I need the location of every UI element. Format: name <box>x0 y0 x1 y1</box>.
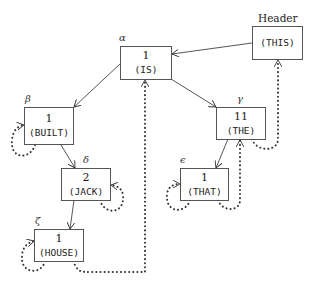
node-epsilon: 1 (THAT) <box>180 168 229 201</box>
node-count: 2 <box>83 171 90 185</box>
node-word: (HOUSE) <box>39 246 79 260</box>
header-node: (THIS) <box>252 26 303 60</box>
gamma-label: γ <box>237 93 243 104</box>
zeta-label: ζ <box>35 215 40 226</box>
node-word: (IS) <box>135 63 158 77</box>
node-count: 11 <box>234 110 248 124</box>
edge-header-alpha <box>172 43 252 54</box>
edge-alpha-gamma <box>171 79 216 107</box>
node-delta: 2 (JACK) <box>61 168 111 201</box>
node-word: (BUILT) <box>29 126 69 140</box>
node-count: 1 <box>46 112 53 126</box>
node-alpha: 1 (IS) <box>120 46 172 80</box>
header-label: Header <box>258 12 298 24</box>
node-zeta: 1 (HOUSE) <box>34 229 84 262</box>
node-word: (THAT) <box>187 185 221 199</box>
edge-beta-delta <box>61 145 75 168</box>
header-word: (THIS) <box>260 36 294 50</box>
node-count: 1 <box>201 171 208 185</box>
node-count: 1 <box>143 49 150 63</box>
node-word: (THE) <box>227 124 256 138</box>
edge-gamma-epsilon <box>216 139 228 168</box>
node-beta: 1 (BUILT) <box>24 107 74 145</box>
delta-label: δ <box>83 154 89 165</box>
edge-delta-zeta <box>70 200 74 229</box>
beta-label: β <box>25 93 31 104</box>
edge-alpha-beta <box>74 64 120 107</box>
epsilon-label: ϵ <box>180 154 186 165</box>
node-count: 1 <box>56 232 63 246</box>
node-word: (JACK) <box>69 185 103 199</box>
alpha-label: α <box>119 32 126 43</box>
node-gamma: 11 (THE) <box>216 107 266 140</box>
